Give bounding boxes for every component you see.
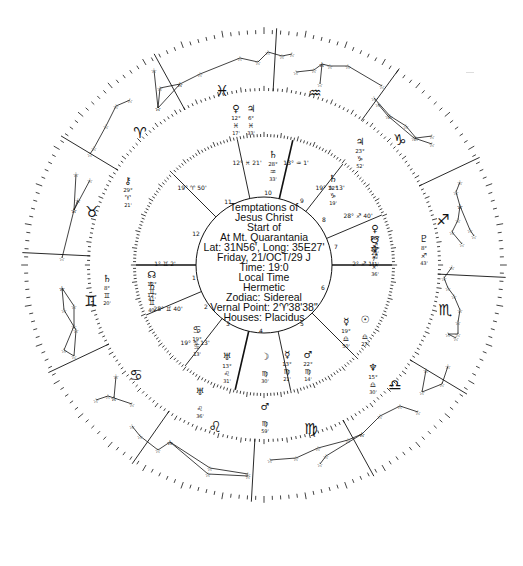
degree-tick [296,91,297,94]
star-icon: ☆ [317,461,323,469]
degree-tick [412,356,415,358]
degree-tick [287,438,288,443]
degree-tick [156,191,158,193]
star-icon: ☆ [255,59,261,67]
degree-tick [170,171,174,175]
degree-tick [281,133,282,138]
degree-tick [396,457,398,460]
house-number-7: 7 [334,243,338,250]
degree-tick [237,390,238,393]
degree-tick [426,327,429,328]
degree-tick [375,58,377,62]
degree-tick [116,447,118,450]
degree-tick [188,105,189,108]
pisces-sign-icon: ♓︎ [215,82,228,100]
degree-tick [181,42,183,48]
degree-tick [363,119,365,121]
degree-tick [445,112,450,116]
star-icon: ☆ [439,381,445,389]
degree-tick [357,353,359,355]
cusp-label-1: 1° ♊︎ 2' [154,260,176,267]
degree-tick [431,314,434,315]
degree-tick [385,221,388,222]
degree-tick [304,387,305,390]
degree-tick [313,383,315,388]
degree-tick [345,482,347,488]
house-cusp-11 [237,140,249,199]
mercury-degree: 19° [341,328,351,334]
degree-tick [52,373,56,375]
star-icon: ☆ [237,55,243,63]
degree-tick [483,177,487,178]
degree-tick [167,351,169,353]
taurus-sign-icon: ♉︎ [85,203,98,221]
star-icon: ☆ [155,105,161,113]
star-icon: ☆ [293,455,299,463]
degree-tick [25,305,32,306]
degree-tick [345,163,347,165]
star-icon: ☆ [455,319,461,327]
mercury-position: ☿︎19°♎︎50' [341,316,351,349]
degree-tick [359,351,361,353]
degree-tick [41,177,45,178]
degree-tick [415,352,419,355]
degree-tick [366,406,368,408]
degree-tick [390,143,392,145]
sun-cap-node-icon: ♄︎ [329,173,338,184]
degree-tick [468,381,474,384]
degree-tick [220,386,221,389]
degree-tick [347,109,348,112]
degree-tick [331,153,333,156]
degree-tick [91,310,96,311]
degree-tick [291,137,292,140]
degree-tick [164,348,166,350]
degree-tick [371,194,374,196]
degree-tick [132,248,137,249]
jupiter-cap-sign-icon: ♑︎ [357,155,363,163]
degree-tick [483,352,487,353]
jupiter-cap-minutes: 52' [356,163,364,169]
star-icon: ☆ [87,177,93,185]
degree-tick [174,479,175,483]
neptune-libra-degree: 15° [368,374,378,380]
degree-tick [359,177,361,179]
degree-tick [197,376,200,380]
degree-tick [300,139,301,142]
degree-tick [342,159,345,163]
star-icon: ☆ [457,203,463,211]
degree-tick [116,360,119,362]
star-icon: ☆ [103,123,109,131]
degree-tick [389,238,392,239]
degree-tick [319,381,320,384]
star-icon: ☆ [457,179,463,187]
degree-tick [90,233,93,234]
degree-tick [335,103,336,106]
degree-tick [108,181,111,182]
degree-tick [325,150,326,153]
degree-tick [402,371,406,374]
degree-tick [417,181,420,182]
degree-tick [60,387,63,389]
degree-tick [313,35,314,39]
degree-tick [460,394,463,396]
mars-degree: 22° [303,361,313,367]
star-icon: ☆ [59,285,65,293]
degree-tick [472,155,476,157]
aquarius-stars-lines [296,64,382,86]
star-icon: ☆ [267,457,273,465]
degree-tick [195,426,197,431]
degree-tick [403,75,405,78]
degree-tick [135,288,138,289]
degree-tick [476,162,480,164]
sign-divider-line [22,253,90,256]
star-icon: ☆ [59,255,65,263]
mars-outer-sign-icon: ♍︎ [262,420,268,428]
cancer-point-degree: 19° [192,336,202,342]
sign-divider-line [438,274,506,277]
degree-tick [368,188,370,190]
star-icon: ☆ [327,63,333,71]
degree-tick [480,359,484,361]
degree-tick [375,329,379,332]
degree-tick [147,323,150,324]
star-icon: ☆ [455,217,461,225]
